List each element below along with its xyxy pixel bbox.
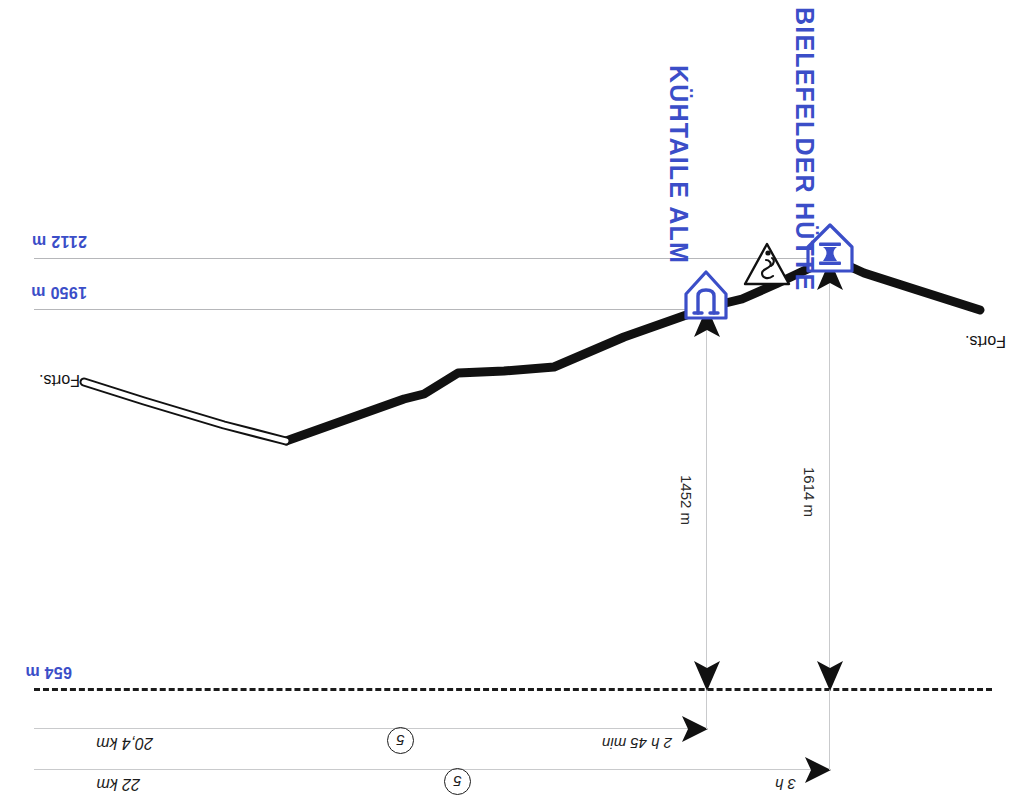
rotated-canvas: 3 h 5 22 km 2 h 45 min 5 20,4 km 654 m 1… <box>0 0 1024 807</box>
waypoint-label-kuehtaile-alm: KÜHTAILE ALM <box>664 65 693 264</box>
scramble-warning-sign-icon[interactable] <box>742 240 792 288</box>
continuation-label-left: Forts. <box>965 332 1006 350</box>
elevation-profile-page: 3 h 5 22 km 2 h 45 min 5 20,4 km 654 m 1… <box>0 0 1024 807</box>
waypoint-marker-kuehtaile-alm[interactable] <box>679 268 733 320</box>
continuation-label-right: Forts. <box>39 371 80 389</box>
elevation-profile-line <box>0 0 1024 807</box>
waypoint-label-bielefelder-huette: BIELEFELDER HÜTTE <box>790 7 819 291</box>
